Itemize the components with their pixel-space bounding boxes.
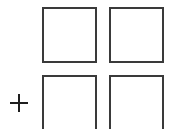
grid-cell-bottom-left[interactable] [42,75,97,129]
add-button[interactable] [10,94,28,112]
grid-cell-top-right[interactable] [109,7,164,63]
grid-cell-top-left[interactable] [42,7,97,63]
plus-icon-vertical-bar [18,94,20,112]
grid-cell-bottom-right[interactable] [109,75,164,129]
